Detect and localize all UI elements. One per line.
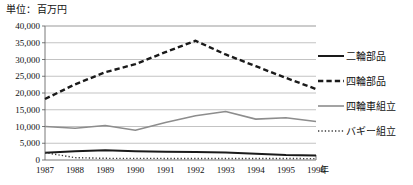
y-axis-tick-label: 15,000	[15, 105, 40, 115]
y-axis-tick-label: 20,000	[15, 88, 40, 98]
legend-label-1: 四輪部品	[346, 75, 386, 87]
x-axis-tick-label: 1993	[217, 165, 236, 175]
y-axis-tick-label: 0	[36, 155, 41, 165]
x-axis-tick-label: 1991	[156, 165, 174, 175]
chart-canvas: 05,00010,00015,00020,00025,00030,00035,0…	[0, 0, 413, 185]
x-axis-tick-label: 1987	[36, 165, 55, 175]
x-axis-tick-label: 1989	[96, 165, 115, 175]
y-axis-tick-label: 5,000	[20, 138, 41, 148]
series-line-1	[45, 41, 316, 99]
x-axis-tick-label: 1990	[126, 165, 145, 175]
line-chart: 単位：百万円 05,00010,00015,00020,00025,00030,…	[0, 0, 413, 185]
legend-label-3: バギー組立	[346, 125, 396, 137]
y-axis-tick-label: 25,000	[15, 71, 40, 81]
legend-label-2: 四輪車組立	[346, 100, 396, 112]
y-axis-tick-label: 35,000	[15, 38, 40, 48]
y-axis-tick-label: 10,000	[15, 122, 40, 132]
y-axis-tick-label: 40,000	[15, 21, 40, 31]
x-axis-tick-label: 1992	[187, 165, 205, 175]
series-line-0	[45, 150, 316, 155]
x-axis-tick-label: 1988	[66, 165, 85, 175]
x-axis-tick-label: 1994	[247, 165, 266, 175]
legend-label-0: 二輪部品	[346, 50, 386, 62]
y-axis-tick-label: 30,000	[15, 55, 40, 65]
series-line-2	[45, 111, 316, 130]
x-axis-unit-label: 年	[320, 164, 329, 175]
x-axis-tick-label: 1995	[277, 165, 296, 175]
